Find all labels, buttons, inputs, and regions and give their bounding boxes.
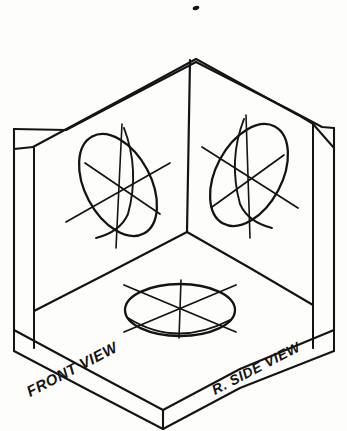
- right-face-circle-group: [194, 111, 304, 239]
- front-view-label: FRONT VIEW: [24, 338, 122, 400]
- isometric-figure: FRONT VIEW R. SIDE VIEW: [0, 0, 347, 431]
- center-vertical-corner-edge: [187, 60, 190, 232]
- top-ridge-left-inner: [33, 59, 196, 147]
- top-ridge-left-outer: [14, 62, 196, 130]
- bottom-slab-left-upper-edge: [14, 330, 163, 410]
- drawing-canvas: FRONT VIEW R. SIDE VIEW: [0, 0, 347, 431]
- top-ridge-right-outer: [196, 62, 334, 128]
- bottom-face-right-edge: [187, 232, 313, 305]
- bottom-face-left-edge: [34, 232, 187, 311]
- stray-ink-mark: [192, 5, 200, 11]
- front-face-circle-group: [63, 121, 173, 249]
- top-ridge-right-inner: [196, 59, 313, 124]
- bottom-face-circle-group: [124, 280, 236, 338]
- top-slab-left-endcap: [14, 129, 33, 149]
